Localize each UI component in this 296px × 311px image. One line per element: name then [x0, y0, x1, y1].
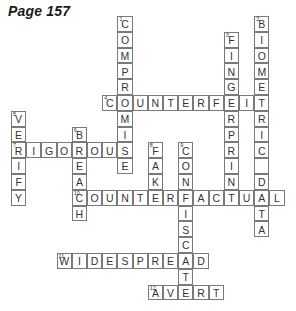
crossword-cell: A	[254, 190, 269, 206]
cell-letter: H	[76, 208, 84, 220]
cell-letter: D	[91, 255, 99, 267]
cell-letter: I	[230, 160, 233, 172]
cell-letter: B	[76, 129, 83, 141]
cell-letter: F	[213, 97, 219, 109]
crossword-cell: 4C	[102, 95, 117, 111]
crossword-cell: L	[269, 190, 284, 206]
cell-letter: O	[91, 145, 99, 157]
cell-letter: S	[121, 255, 128, 267]
crossword-cell	[254, 158, 269, 174]
cell-letter: I	[17, 160, 20, 172]
cell-letter: R	[167, 192, 175, 204]
crossword-cell: O	[87, 142, 102, 158]
crossword-cell: N	[117, 190, 132, 206]
crossword-cell: T	[178, 269, 193, 285]
cell-letter: A	[258, 224, 265, 236]
crossword-cell: U	[239, 190, 254, 206]
crossword-cell: R	[254, 111, 269, 127]
cell-letter: E	[76, 160, 83, 172]
cell-letter: E	[182, 97, 189, 109]
crossword-cell: I	[224, 158, 239, 174]
cell-letter: S	[182, 224, 189, 236]
cell-letter: E	[167, 255, 174, 267]
clue-number: 11	[59, 254, 65, 260]
crossword-cell: R	[163, 190, 178, 206]
crossword-cell: O	[87, 190, 102, 206]
cell-letter: U	[136, 97, 144, 109]
cell-letter: U	[106, 145, 114, 157]
cell-letter: B	[258, 18, 265, 30]
crossword-cell: I	[254, 32, 269, 48]
crossword-cell: I	[239, 95, 254, 111]
cell-letter: R	[76, 145, 84, 157]
crossword-cell: I	[72, 253, 87, 269]
cell-letter: F	[15, 176, 21, 188]
crossword-cell: S	[178, 221, 193, 237]
cell-letter: N	[228, 66, 236, 78]
crossword-cell: F	[209, 95, 224, 111]
crossword-cell: T	[254, 95, 269, 111]
cell-letter: C	[212, 192, 220, 204]
crossword-cell: D	[193, 253, 208, 269]
cell-letter: F	[183, 192, 189, 204]
crossword-cell: 5V	[11, 111, 26, 127]
crossword-cell: Y	[11, 190, 26, 206]
cell-letter: C	[258, 145, 266, 157]
crossword-cell: F	[178, 190, 193, 206]
cell-letter: S	[121, 145, 128, 157]
cell-letter: A	[182, 255, 189, 267]
cell-letter: Y	[15, 192, 22, 204]
clue-number: 9	[180, 143, 183, 149]
cell-letter: E	[121, 160, 128, 172]
clue-number: 12	[150, 286, 156, 292]
clue-number: 4	[104, 96, 107, 102]
crossword-cell: E	[163, 253, 178, 269]
cell-letter: T	[183, 271, 189, 283]
crossword-cell: I	[178, 206, 193, 222]
crossword-cell: 7R	[11, 142, 26, 158]
crossword-cell: E	[11, 127, 26, 143]
cell-letter: I	[230, 50, 233, 62]
crossword-cell: 2B	[254, 16, 269, 32]
crossword-cell: E	[117, 158, 132, 174]
cell-letter: U	[243, 192, 251, 204]
cell-letter: G	[45, 145, 53, 157]
crossword-cell: V	[163, 285, 178, 301]
crossword-cell: P	[117, 63, 132, 79]
cell-letter: I	[32, 145, 35, 157]
crossword-cell: T	[209, 285, 224, 301]
cell-letter: V	[167, 287, 174, 299]
cell-letter: F	[228, 34, 234, 46]
crossword-cell: D	[254, 174, 269, 190]
crossword-cell: C	[209, 190, 224, 206]
cell-letter: I	[260, 129, 263, 141]
cell-letter: T	[137, 192, 143, 204]
crossword-cell: E	[72, 158, 87, 174]
crossword-cell: D	[87, 253, 102, 269]
crossword-cell: U	[133, 95, 148, 111]
cell-letter: E	[258, 81, 265, 93]
crossword-cell: I	[26, 142, 41, 158]
clue-number: 8	[150, 143, 153, 149]
crossword-cell: O	[178, 158, 193, 174]
cell-letter: F	[152, 145, 158, 157]
cell-letter: O	[121, 97, 129, 109]
crossword-cell: 9C	[178, 142, 193, 158]
crossword-cell: C	[178, 237, 193, 253]
crossword-cell: T	[133, 190, 148, 206]
crossword-cell: T	[163, 95, 178, 111]
crossword-cell: A	[178, 253, 193, 269]
cell-letter: N	[228, 176, 236, 188]
cell-letter: O	[182, 160, 190, 172]
crossword-cell: 12A	[148, 285, 163, 301]
crossword-cell: 11W	[57, 253, 72, 269]
crossword-cell: N	[224, 63, 239, 79]
clue-number: 7	[13, 143, 16, 149]
cell-letter: A	[258, 192, 265, 204]
crossword-cell: T	[254, 206, 269, 222]
crossword-cell: 3F	[224, 32, 239, 48]
cell-letter: D	[197, 255, 205, 267]
crossword-cell: M	[117, 48, 132, 64]
cell-letter: R	[228, 113, 236, 125]
clue-number: 1	[119, 17, 122, 23]
